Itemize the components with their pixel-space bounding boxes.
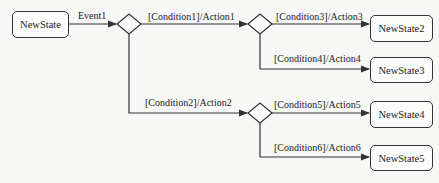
label-transition-1: [Condition1]/Action1: [148, 11, 235, 22]
label-transition-2: [Condition2]/Action2: [145, 97, 232, 108]
state-newstate4: NewState4: [370, 101, 433, 128]
state-newstate2: NewState2: [370, 15, 433, 42]
label-event1: Event1: [78, 10, 106, 21]
label-transition-6: [Condition6]/Action6: [274, 142, 361, 153]
label-transition-3: [Condition3]/Action3: [276, 11, 363, 22]
state-newstate3: NewState3: [370, 57, 433, 83]
label-transition-5: [Condition5]/Action5: [274, 99, 361, 110]
label-transition-4: [Condition4]/Action4: [274, 53, 361, 64]
state-newstate: NewState: [12, 11, 69, 38]
state-newstate5: NewState5: [370, 145, 433, 171]
choice-diamond-1: [117, 14, 141, 34]
